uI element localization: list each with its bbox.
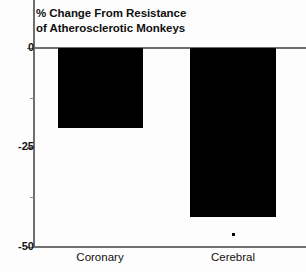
y-tick-mark-minor-2: [30, 197, 34, 198]
y-tick-label-2: -50: [8, 240, 34, 252]
chart-title: % Change From Resistance of Atherosclero…: [36, 6, 276, 35]
bar-coronary: [58, 48, 143, 128]
x-axis-line: [33, 246, 306, 248]
bar-chart-figure: % Change From Resistance of Atherosclero…: [0, 0, 306, 272]
x-category-label-coronary: Coronary: [76, 251, 123, 263]
chart-title-line-2: of Atherosclerotic Monkeys: [36, 21, 276, 36]
y-axis-line: [33, 0, 35, 248]
x-category-label-cerebral: Cerebral: [211, 251, 255, 263]
chart-title-line-1: % Change From Resistance: [36, 6, 276, 21]
significance-marker-icon: [232, 233, 235, 236]
y-tick-mark-minor-1: [30, 98, 34, 99]
y-tick-label-0: 0: [8, 41, 34, 53]
bar-cerebral: [190, 48, 276, 217]
y-tick-label-1: -25: [8, 140, 34, 152]
